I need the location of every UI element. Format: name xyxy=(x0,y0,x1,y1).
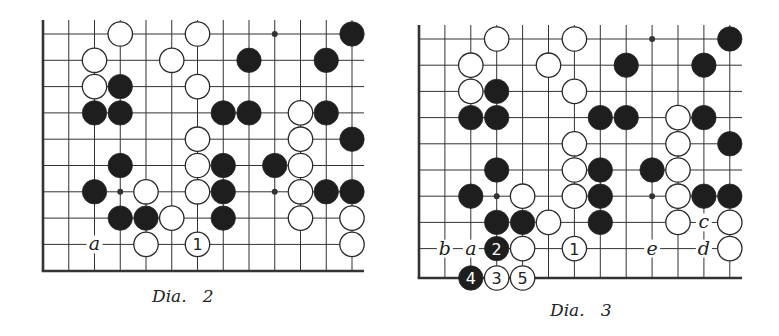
black-stone xyxy=(485,105,509,129)
black-stone xyxy=(640,158,664,182)
black-stone xyxy=(588,184,612,208)
white-stone xyxy=(666,210,690,234)
star-point xyxy=(494,193,500,199)
black-stone xyxy=(692,105,716,129)
black-stone xyxy=(692,53,716,77)
move-number: 2 xyxy=(492,240,502,259)
black-stone xyxy=(588,158,612,182)
black-stone xyxy=(510,210,534,234)
point-label-d: d xyxy=(698,237,710,259)
black-stone xyxy=(692,184,716,208)
white-stone xyxy=(718,210,742,234)
white-stone xyxy=(666,184,690,208)
black-stone xyxy=(485,79,509,103)
white-stone xyxy=(666,158,690,182)
white-stone xyxy=(562,79,586,103)
white-stone xyxy=(536,53,560,77)
black-stone xyxy=(485,210,509,234)
point-label-c: c xyxy=(699,210,710,232)
white-stone xyxy=(536,210,560,234)
star-point xyxy=(649,36,655,42)
black-stone xyxy=(614,105,638,129)
black-stone xyxy=(718,184,742,208)
white-stone xyxy=(459,53,483,77)
black-stone xyxy=(588,105,612,129)
caption-dia2: Dia. 2 xyxy=(152,286,214,306)
black-stone xyxy=(588,210,612,234)
star-point xyxy=(649,193,655,199)
black-stone xyxy=(718,27,742,51)
white-stone xyxy=(562,27,586,51)
black-stone xyxy=(718,132,742,156)
black-stone xyxy=(614,53,638,77)
go-diagrams-page: a1 baedc21435 Dia. 2 Dia. 3 xyxy=(0,0,779,336)
white-stone xyxy=(459,79,483,103)
black-stone xyxy=(459,105,483,129)
white-stone xyxy=(562,158,586,182)
white-stone xyxy=(510,184,534,208)
caption-dia3: Dia. 3 xyxy=(550,300,612,320)
black-stone xyxy=(459,184,483,208)
point-label-e: e xyxy=(646,237,657,259)
white-stone xyxy=(666,132,690,156)
white-stone xyxy=(510,236,534,260)
white-stone xyxy=(485,27,509,51)
point-label-a: a xyxy=(465,237,476,259)
move-number: 3 xyxy=(492,269,502,288)
move-number: 5 xyxy=(518,269,528,288)
white-stone xyxy=(562,184,586,208)
go-board-dia3: baedc21435 xyxy=(0,0,779,336)
move-number: 1 xyxy=(569,240,579,259)
white-stone xyxy=(562,132,586,156)
white-stone xyxy=(718,236,742,260)
black-stone xyxy=(485,158,509,182)
white-stone xyxy=(666,105,690,129)
move-number: 4 xyxy=(466,269,476,288)
point-label-b: b xyxy=(439,237,451,259)
